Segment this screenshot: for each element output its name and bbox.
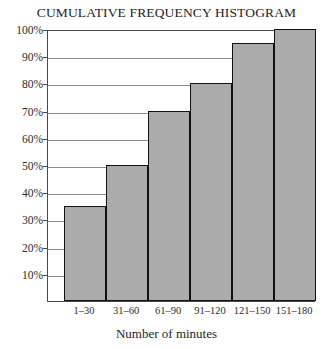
cumulative-frequency-histogram-figure: CUMULATIVE FREQUENCY HISTOGRAM 10%20%30%… xyxy=(0,0,333,349)
y-axis-tick-labels: 10%20%30%40%50%60%70%80%90%100% xyxy=(0,0,47,349)
bar xyxy=(64,206,106,301)
y-axis-tick-label: 30% xyxy=(22,214,43,226)
y-axis-tick-label: 60% xyxy=(22,133,43,145)
bar xyxy=(274,29,316,301)
y-axis-tick-label: 40% xyxy=(22,187,43,199)
y-axis-tick-label: 70% xyxy=(22,106,43,118)
y-axis-tick-label: 10% xyxy=(22,269,43,281)
x-axis-tick-label: 151–180 xyxy=(263,305,326,316)
y-axis-tick-label: 100% xyxy=(16,24,43,36)
x-axis-tick-labels: 1–3031–6061–9091–120121–150151–180 xyxy=(47,305,315,323)
y-axis-tick-label: 90% xyxy=(22,51,43,63)
chart-title: CUMULATIVE FREQUENCY HISTOGRAM xyxy=(0,5,333,21)
bar xyxy=(148,111,190,301)
y-axis-tick-label: 80% xyxy=(22,78,43,90)
bar-series xyxy=(48,31,314,301)
bar xyxy=(232,43,274,301)
y-axis-tick-label: 50% xyxy=(22,160,43,172)
x-axis-title: Number of minutes xyxy=(0,326,333,342)
plot-area xyxy=(47,30,315,302)
bar xyxy=(190,83,232,301)
bar xyxy=(106,165,148,301)
y-axis-tick-label: 20% xyxy=(22,242,43,254)
